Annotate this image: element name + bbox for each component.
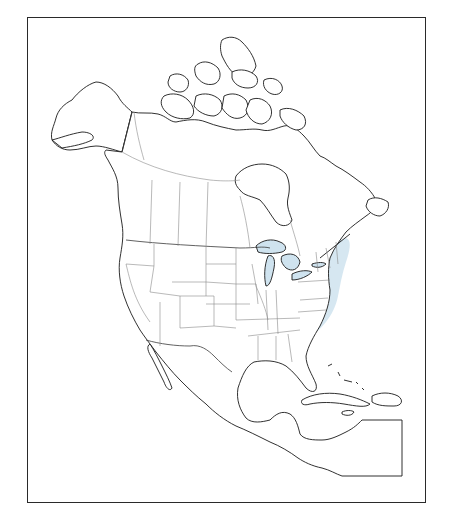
arctic-islands <box>161 37 305 130</box>
jamaica-outline <box>342 411 354 416</box>
hispaniola-outline <box>372 393 401 406</box>
alaska-outline <box>51 82 132 152</box>
cuba-outline <box>301 393 370 406</box>
caribbean-islands <box>301 364 401 415</box>
bahamas <box>328 364 364 390</box>
north-america-range-map <box>0 0 451 526</box>
